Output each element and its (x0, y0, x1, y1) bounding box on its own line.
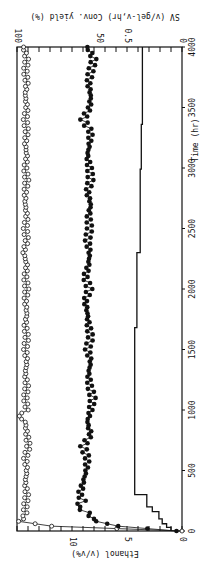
time-axis-title: Time (hr) (191, 118, 200, 161)
axis-ticks (17, 47, 185, 531)
sv-step-line (135, 47, 171, 531)
yield-tick-label: 100 (13, 29, 22, 44)
time-tick-label: 4000 (188, 37, 197, 56)
rotated-line-chart: 050010001500200025003000350040000510Etha… (0, 0, 209, 569)
time-tick-label: 3500 (188, 98, 197, 117)
ethanol-tick-label: 0 (178, 537, 187, 542)
time-tick-label: 1000 (188, 400, 197, 419)
yield-tick-label: 0 (178, 38, 187, 43)
time-tick-label: 2500 (188, 219, 197, 238)
yield-tick-label: 50 (95, 33, 104, 43)
right-axis-title: SV (v/gel-v,hr) Conv. yield (%) (30, 12, 179, 21)
sv-tick-label: 0.5 (123, 29, 132, 44)
ethanol-tick-label: 5 (123, 537, 132, 542)
plot-border (17, 47, 182, 531)
time-tick-label: 2000 (188, 279, 197, 298)
conversion-yield-series (17, 45, 184, 533)
ethanol-axis-title: Ethanol (v/v%) (71, 549, 138, 558)
time-tick-label: 1500 (188, 340, 197, 359)
plot-frame (17, 47, 182, 531)
axis-labels: 050010001500200025003000350040000510Etha… (13, 12, 201, 558)
time-tick-label: 0 (188, 528, 197, 533)
ethanol-tick-label: 10 (68, 537, 77, 547)
time-tick-label: 500 (188, 463, 197, 478)
ethanol-series (75, 45, 179, 534)
